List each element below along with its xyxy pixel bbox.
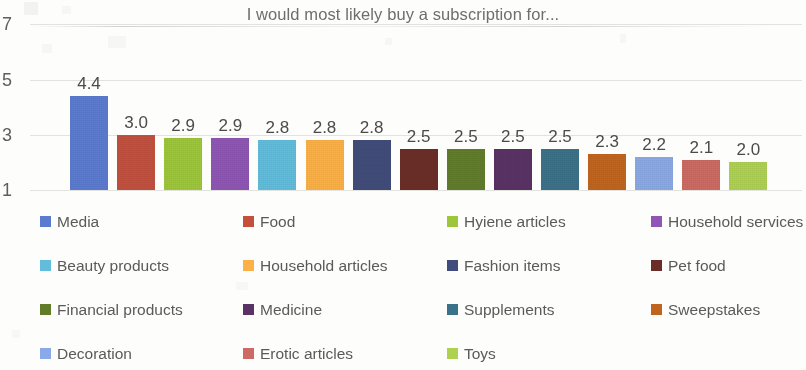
chart-legend: MediaFoodHyiene articlesHousehold servic… (0, 203, 806, 370)
legend-swatch-icon (447, 304, 458, 315)
bar-value-label: 4.4 (60, 75, 118, 92)
legend-item[interactable]: Erotic articles (243, 346, 353, 362)
bar-group[interactable] (70, 0, 108, 205)
legend-swatch-icon (40, 304, 51, 315)
legend-item-label: Pet food (668, 258, 726, 274)
legend-item-label: Beauty products (57, 258, 169, 274)
bar[interactable] (588, 154, 626, 190)
legend-item-label: Medicine (260, 302, 322, 318)
legend-item[interactable]: Decoration (40, 346, 132, 362)
legend-swatch-icon (40, 260, 51, 271)
bar[interactable] (164, 138, 202, 190)
bar-group[interactable] (494, 0, 532, 205)
legend-item[interactable]: Hyiene articles (447, 214, 566, 230)
bar[interactable] (117, 135, 155, 190)
bar[interactable] (258, 140, 296, 190)
bar-value-label: 2.0 (719, 141, 777, 158)
bar[interactable] (353, 140, 391, 190)
bar-group[interactable] (353, 0, 391, 205)
legend-swatch-icon (243, 304, 254, 315)
bar[interactable] (70, 96, 108, 190)
legend-item[interactable]: Supplements (447, 302, 554, 318)
legend-item-label: Fashion items (464, 258, 560, 274)
bar[interactable] (541, 149, 579, 190)
legend-item[interactable]: Media (40, 214, 99, 230)
legend-item-label: Household services (668, 214, 803, 230)
legend-swatch-icon (447, 348, 458, 359)
bar-group[interactable] (635, 0, 673, 205)
legend-item[interactable]: Pet food (651, 258, 726, 274)
legend-item-label: Decoration (57, 346, 132, 362)
legend-item[interactable]: Food (243, 214, 295, 230)
chart-screenshot: I would most likely buy a subscription f… (0, 0, 806, 370)
bar-group[interactable] (541, 0, 579, 205)
legend-item-label: Toys (464, 346, 496, 362)
bar[interactable] (494, 149, 532, 190)
legend-item[interactable]: Sweepstakes (651, 302, 760, 318)
legend-item[interactable]: Household articles (243, 258, 388, 274)
legend-swatch-icon (243, 348, 254, 359)
bar[interactable] (729, 162, 767, 190)
legend-swatch-icon (447, 216, 458, 227)
bar[interactable] (447, 149, 485, 190)
bar-group[interactable] (211, 0, 249, 205)
bar-series: 4.43.02.92.92.82.82.82.52.52.52.52.32.22… (0, 0, 806, 205)
legend-swatch-icon (40, 216, 51, 227)
legend-swatch-icon (243, 216, 254, 227)
legend-item-label: Media (57, 214, 99, 230)
legend-swatch-icon (243, 260, 254, 271)
bar-group[interactable] (306, 0, 344, 205)
legend-item-label: Hyiene articles (464, 214, 566, 230)
bar-group[interactable] (682, 0, 720, 205)
legend-item-label: Supplements (464, 302, 554, 318)
legend-item-label: Financial products (57, 302, 183, 318)
legend-item-label: Sweepstakes (668, 302, 760, 318)
legend-item[interactable]: Household services (651, 214, 803, 230)
legend-item[interactable]: Medicine (243, 302, 322, 318)
bar[interactable] (400, 149, 438, 190)
bar-group[interactable] (729, 0, 767, 205)
legend-swatch-icon (651, 260, 662, 271)
bar[interactable] (306, 140, 344, 190)
legend-swatch-icon (447, 260, 458, 271)
legend-item-label: Food (260, 214, 295, 230)
legend-item[interactable]: Toys (447, 346, 496, 362)
bar[interactable] (211, 138, 249, 190)
legend-swatch-icon (651, 216, 662, 227)
bar-group[interactable] (117, 0, 155, 205)
legend-item-label: Erotic articles (260, 346, 353, 362)
bar[interactable] (635, 157, 673, 190)
legend-swatch-icon (40, 348, 51, 359)
bar-group[interactable] (400, 0, 438, 205)
bar[interactable] (682, 160, 720, 190)
legend-item[interactable]: Fashion items (447, 258, 560, 274)
bar-group[interactable] (447, 0, 485, 205)
legend-item[interactable]: Financial products (40, 302, 183, 318)
bar-group[interactable] (258, 0, 296, 205)
legend-item[interactable]: Beauty products (40, 258, 169, 274)
bar-group[interactable] (588, 0, 626, 205)
bar-group[interactable] (164, 0, 202, 205)
legend-swatch-icon (651, 304, 662, 315)
legend-item-label: Household articles (260, 258, 388, 274)
